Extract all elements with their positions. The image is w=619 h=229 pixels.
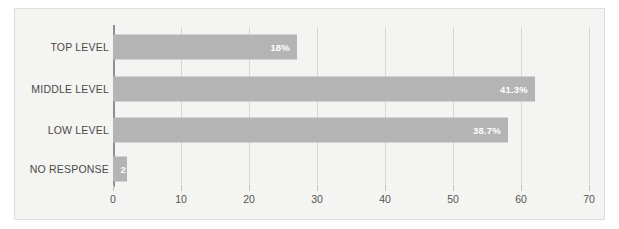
bar-no-response[interactable]: 2 (113, 157, 127, 182)
xtick-label-60: 60 (515, 193, 527, 205)
bar-row-middle-level: MIDDLE LEVEL 41.3% (15, 69, 604, 109)
xtick-label-30: 30 (311, 193, 323, 205)
bar-row-low-level: LOW LEVEL 38.7% (15, 110, 604, 150)
category-label-box-low-level: LOW LEVEL (23, 110, 109, 150)
category-label-no-response: NO RESPONSE (30, 163, 109, 175)
category-label-low-level: LOW LEVEL (48, 124, 109, 136)
bar-value-top-level: 18% (270, 42, 290, 53)
bar-value-low-level: 38.7% (473, 125, 501, 136)
bar-low-level[interactable]: 38.7% (113, 118, 508, 143)
xtick-label-0: 0 (110, 193, 116, 205)
plot-area: TOP LEVEL 18% MIDDLE LEVEL 41.3% LOW LEV… (15, 9, 604, 219)
xtick-label-70: 70 (583, 193, 595, 205)
bar-middle-level[interactable]: 41.3% (113, 77, 535, 102)
bar-value-middle-level: 41.3% (500, 84, 528, 95)
category-label-top-level: TOP LEVEL (50, 41, 109, 53)
category-label-box-top-level: TOP LEVEL (23, 27, 109, 67)
xtick-label-50: 50 (447, 193, 459, 205)
category-label-box-no-response: NO RESPONSE (23, 149, 109, 189)
category-label-middle-level: MIDDLE LEVEL (31, 83, 109, 95)
xtick-label-10: 10 (175, 193, 187, 205)
chart-frame: TOP LEVEL 18% MIDDLE LEVEL 41.3% LOW LEV… (14, 8, 605, 220)
bar-row-no-response: NO RESPONSE 2 (15, 149, 604, 189)
bar-top-level[interactable]: 18% (113, 35, 297, 60)
bar-value-no-response: 2 (121, 164, 126, 175)
xtick-label-20: 20 (243, 193, 255, 205)
bar-row-top-level: TOP LEVEL 18% (15, 27, 604, 67)
xtick-label-40: 40 (379, 193, 391, 205)
category-label-box-middle-level: MIDDLE LEVEL (23, 69, 109, 109)
